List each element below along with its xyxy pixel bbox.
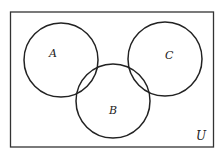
venn-diagram: A B C U (0, 0, 224, 155)
set-c-label: C (165, 49, 174, 62)
set-b-circle (76, 64, 150, 138)
universe-label: U (196, 129, 207, 143)
set-b-label: B (108, 104, 117, 117)
universe-rectangle (11, 12, 214, 147)
set-a-circle (24, 23, 98, 97)
set-a-label: A (48, 47, 57, 60)
